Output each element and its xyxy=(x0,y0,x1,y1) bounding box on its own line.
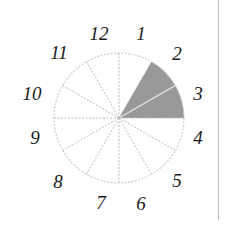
sector-divider xyxy=(63,86,119,119)
sector-divider xyxy=(119,118,152,174)
clock-label-11: 11 xyxy=(50,42,68,63)
clock-label-6: 6 xyxy=(136,193,146,214)
sector-divider xyxy=(87,62,120,118)
clock-label-2: 2 xyxy=(172,43,182,64)
clock-label-5: 5 xyxy=(172,170,182,191)
clock-label-7: 7 xyxy=(96,192,107,213)
clock-label-4: 4 xyxy=(193,127,203,148)
clock-label-8: 8 xyxy=(53,171,63,192)
sector-divider xyxy=(63,118,119,151)
clock-label-9: 9 xyxy=(30,127,40,148)
clock-label-10: 10 xyxy=(23,83,43,104)
clock-label-1: 1 xyxy=(136,23,146,44)
sector-divider xyxy=(119,118,175,151)
clock-label-12: 12 xyxy=(90,23,110,44)
shaded-sectors xyxy=(119,62,184,118)
clock-label-3: 3 xyxy=(192,83,203,104)
fraction-circle-diagram: 121234567891011 xyxy=(0,0,228,237)
sector-divider xyxy=(87,118,120,174)
